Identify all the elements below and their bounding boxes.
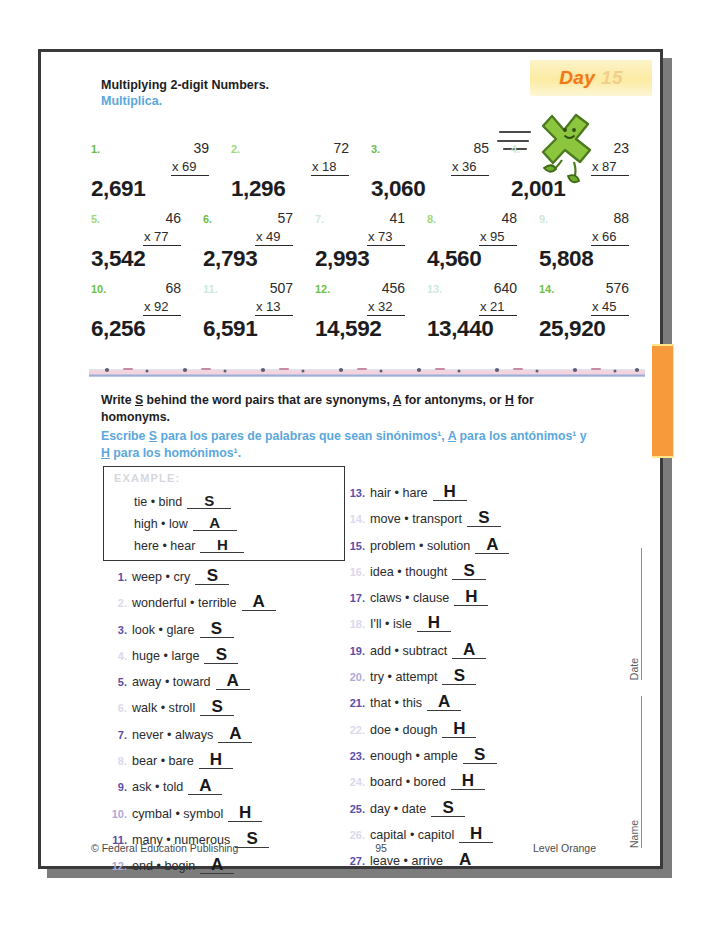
word-pair-answer-blank[interactable]: A	[427, 694, 461, 711]
word-pair-number: 20.	[341, 671, 370, 683]
word-pair-item[interactable]: 4.huge • largeS	[103, 647, 353, 673]
word-pair-item[interactable]: 19.add • subtractA	[341, 642, 591, 668]
word-pair-answer-blank[interactable]: A	[216, 673, 250, 690]
word-pair-answer-blank[interactable]: S	[200, 621, 234, 638]
math-problem: 1.39 x 69 2,691	[91, 140, 231, 201]
inst-es-3: para los antónimos¹ y	[456, 429, 587, 443]
word-pair-text: end • begin	[132, 859, 195, 873]
multiplicand: 48	[453, 210, 517, 226]
math-row: 1.39 x 69 2,691 2.72 x 18 1,296 3.85 x 3…	[91, 140, 651, 201]
math-problem: 6.57 x 49 2,793	[203, 210, 315, 271]
word-pair-item[interactable]: 1.weep • cryS	[103, 568, 353, 594]
example-word-pair: here • hear	[134, 539, 195, 553]
word-pair-answer-blank[interactable]: S	[204, 647, 238, 664]
word-pair-text: hair • hare	[370, 486, 428, 500]
word-pair-answer-blank[interactable]: A	[242, 594, 276, 611]
word-pair-item[interactable]: 9.ask • toldA	[103, 778, 353, 804]
word-pair-answer-blank[interactable]: H	[228, 805, 262, 822]
word-pair-answer-blank[interactable]: A	[452, 642, 486, 659]
multiplier: x 77	[143, 229, 181, 246]
word-pair-answer-blank[interactable]: H	[433, 484, 467, 501]
word-pair-item[interactable]: 12.end • beginA	[103, 857, 353, 883]
word-pair-item[interactable]: 16.idea • thoughtS	[341, 563, 591, 589]
word-pair-number: 26.	[341, 829, 370, 841]
word-pair-item[interactable]: 22.doe • doughH	[341, 721, 591, 747]
word-pair-item[interactable]: 14.move • transportS	[341, 510, 591, 536]
word-pair-item[interactable]: 3.look • glareS	[103, 621, 353, 647]
inst-es-s: S	[149, 429, 157, 443]
word-pair-answer-blank[interactable]: S	[442, 668, 476, 685]
example-row: high • low A	[134, 515, 237, 531]
inst-en-a: A	[393, 393, 401, 407]
word-pair-item[interactable]: 18.I'll • isleH	[341, 615, 591, 641]
math-problem: 12.456 x 32 14,592	[315, 280, 427, 341]
word-pair-answer-blank[interactable]: H	[451, 773, 485, 790]
word-pair-item[interactable]: 23.enough • ampleS	[341, 747, 591, 773]
word-pair-item[interactable]: 15.problem • solutionA	[341, 537, 591, 563]
page-title: Multiplying 2-digit Numbers. Multiplica.	[101, 77, 269, 110]
word-pair-text: enough • ample	[370, 749, 458, 763]
word-pair-list-right: 13.hair • hareH14.move • transportS15.pr…	[341, 484, 591, 878]
name-field[interactable]: Name	[624, 696, 642, 848]
word-pair-item[interactable]: 2.wonderful • terribleA	[103, 594, 353, 620]
name-rule	[641, 696, 642, 848]
multiplicand: 507	[229, 280, 293, 296]
example-word-pair: high • low	[134, 517, 188, 531]
multiplicand: 23	[537, 140, 629, 156]
word-pair-number: 10.	[103, 808, 132, 820]
word-pair-answer-blank[interactable]: S	[463, 747, 497, 764]
problem-answer: 6,591	[203, 316, 293, 341]
word-pair-item[interactable]: 10.cymbal • symbolH	[103, 805, 353, 831]
word-pair-item[interactable]: 20.try • attemptS	[341, 668, 591, 694]
word-pair-answer-blank[interactable]: A	[218, 726, 252, 743]
word-pair-number: 13.	[341, 487, 370, 499]
multiplicand: 68	[117, 280, 181, 296]
word-pair-text: huge • large	[132, 649, 199, 663]
page-footer: © Federal Education Publishing 95 Level …	[91, 842, 620, 854]
math-problem: 4.23 x 87 2,001	[511, 140, 651, 201]
word-pair-item[interactable]: 6.walk • strollS	[103, 699, 353, 725]
word-pair-number: 23.	[341, 750, 370, 762]
problem-answer: 2,793	[203, 246, 293, 271]
word-pair-text: claws • clause	[370, 591, 449, 605]
word-pair-answer-blank[interactable]: A	[448, 852, 482, 869]
multiplier: x 73	[367, 229, 405, 246]
word-pair-number: 14.	[341, 513, 370, 525]
multiplicand: 640	[453, 280, 517, 296]
inst-es-h: H	[101, 446, 110, 460]
word-pair-answer-blank[interactable]: S	[467, 510, 501, 527]
word-pair-number: 5.	[103, 676, 132, 688]
word-pair-text: that • this	[370, 696, 422, 710]
word-pair-text: try • attempt	[370, 670, 437, 684]
word-pair-answer-blank[interactable]: H	[454, 589, 488, 606]
word-pair-item[interactable]: 21.that • thisA	[341, 694, 591, 720]
multiplier: x 32	[367, 299, 405, 316]
word-pair-text: bear • bare	[132, 754, 194, 768]
multiplier: x 49	[255, 229, 293, 246]
word-pair-item[interactable]: 5.away • towardA	[103, 673, 353, 699]
word-pair-answer-blank[interactable]: S	[200, 699, 234, 716]
word-pair-answer-blank[interactable]: A	[475, 537, 509, 554]
word-pair-item[interactable]: 27.leave • arriveA	[341, 852, 591, 878]
word-pair-item[interactable]: 24.board • boredH	[341, 773, 591, 799]
word-pair-item[interactable]: 13.hair • hareH	[341, 484, 591, 510]
problem-answer: 2,691	[91, 176, 209, 201]
word-pair-answer-blank[interactable]: H	[459, 826, 493, 843]
word-pair-answer-blank[interactable]: H	[442, 721, 476, 738]
date-field[interactable]: Date	[624, 548, 642, 680]
math-row: 5.46 x 77 3,542 6.57 x 49 2,793 7.41 x 7…	[91, 210, 651, 271]
word-pair-answer-blank[interactable]: A	[188, 778, 222, 795]
word-pair-answer-blank[interactable]: H	[417, 615, 451, 632]
word-pair-text: move • transport	[370, 512, 462, 526]
word-pair-item[interactable]: 7.never • alwaysA	[103, 726, 353, 752]
word-pair-answer-blank[interactable]: H	[199, 752, 233, 769]
word-pair-answer-blank[interactable]: S	[452, 563, 486, 580]
word-pair-answer-blank[interactable]: S	[195, 568, 229, 585]
problem-number: 10.	[91, 283, 117, 295]
problem-number: 11.	[203, 283, 229, 295]
word-pair-answer-blank[interactable]: A	[200, 857, 234, 874]
word-pair-answer-blank[interactable]: S	[431, 800, 465, 817]
word-pair-item[interactable]: 8.bear • bareH	[103, 752, 353, 778]
word-pair-item[interactable]: 17.claws • clauseH	[341, 589, 591, 615]
word-pair-item[interactable]: 25.day • dateS	[341, 800, 591, 826]
